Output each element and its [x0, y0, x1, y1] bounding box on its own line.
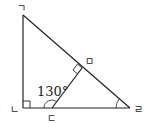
right-angle-mark-n: [23, 101, 30, 108]
angle-arc-r: [116, 99, 119, 108]
angle-label-130: 130°: [37, 84, 68, 99]
vertex-label-r: ㄹ: [134, 104, 143, 115]
vertex-label-n: ㄴ: [10, 104, 19, 115]
vertex-label-d: ㄷ: [47, 113, 56, 124]
vertex-label-g: ㄱ: [17, 3, 26, 14]
geometry-diagram: ㄱ ㄴ ㄷ ㄹ ㅁ 130°: [0, 0, 151, 127]
vertex-label-m: ㅁ: [85, 56, 94, 67]
